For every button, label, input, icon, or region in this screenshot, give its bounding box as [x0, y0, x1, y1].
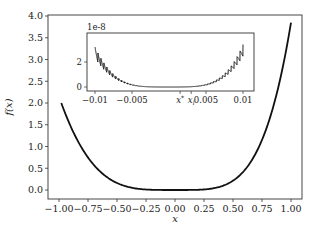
x-tick-label: 0.25 — [193, 203, 214, 214]
inset-axes: −0.01−0.005x*xl0.0050.01021e-8 — [77, 22, 254, 106]
inset-frame — [87, 33, 254, 91]
y-axis-label: f(x) — [3, 98, 14, 116]
x-axis-label: x — [172, 213, 178, 224]
inset-x-tick-label: −0.01 — [82, 95, 108, 105]
chart: −1.00−0.75−0.50−0.250.000.250.500.751.00… — [0, 0, 315, 235]
x-tick-label: −0.25 — [131, 203, 160, 214]
inset-offset-text: 1e-8 — [87, 22, 106, 32]
y-tick-label: 3.0 — [28, 54, 43, 65]
y-tick-label: 1.5 — [28, 119, 43, 130]
inset-x-tick-label: 0.005 — [194, 95, 218, 105]
x-tick-label: −1.00 — [44, 203, 73, 214]
x-tick-label: 1.00 — [280, 203, 301, 214]
y-tick-label: 1.0 — [28, 141, 43, 152]
inset-x-tick-label: x* — [176, 94, 184, 105]
inset-y-tick-label: 2 — [77, 57, 82, 67]
inset-x-tick-label: 0.01 — [234, 95, 253, 105]
y-tick-label: 0.0 — [28, 184, 43, 195]
y-tick-label: 4.0 — [28, 10, 43, 21]
inset-y-tick-label: 0 — [77, 82, 82, 92]
inset-x-tick-label: −0.005 — [116, 95, 147, 105]
x-tick-label: −0.75 — [73, 203, 102, 214]
y-tick-label: 3.5 — [28, 32, 43, 43]
y-tick-label: 0.5 — [28, 163, 43, 174]
x-tick-label: 0.75 — [251, 203, 272, 214]
y-tick-label: 2.5 — [28, 76, 43, 87]
y-tick-label: 2.0 — [28, 97, 43, 108]
x-tick-label: 0.50 — [222, 203, 243, 214]
x-tick-label: −0.50 — [102, 203, 131, 214]
